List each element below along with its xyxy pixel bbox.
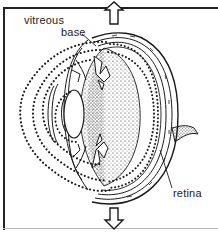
arrow-up-icon (105, 2, 123, 24)
vitreous-body (80, 48, 140, 186)
label-retina: retina (173, 188, 202, 199)
diagram-frame: vitreous base retina (0, 0, 218, 232)
label-vitreous: vitreous (24, 15, 64, 26)
lens (64, 90, 84, 138)
arrow-down-icon (105, 208, 123, 229)
label-base: base (61, 27, 86, 38)
